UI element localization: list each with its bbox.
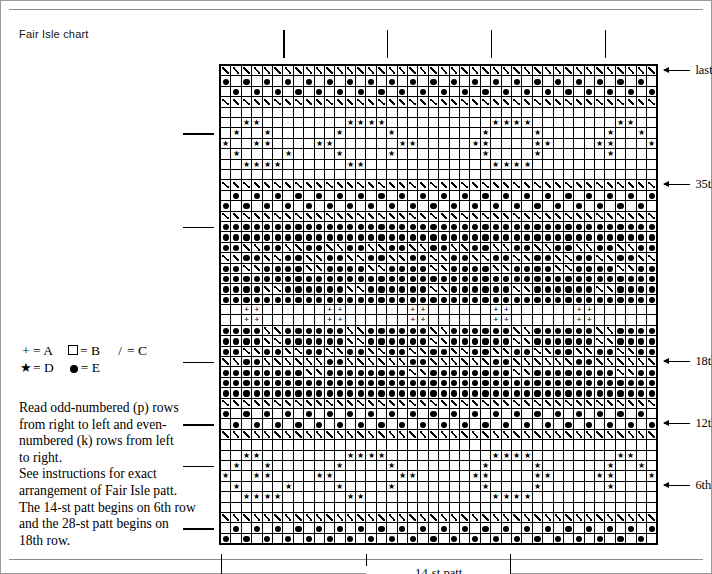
chart-cell[interactable]: [314, 429, 324, 439]
chart-cell[interactable]: [636, 523, 646, 533]
chart-cell[interactable]: [231, 232, 241, 242]
chart-cell[interactable]: [304, 149, 314, 159]
chart-cell[interactable]: [470, 211, 480, 221]
chart-cell[interactable]: [459, 211, 469, 221]
chart-cell[interactable]: [522, 97, 532, 107]
chart-cell[interactable]: [491, 86, 501, 96]
chart-cell[interactable]: [470, 523, 480, 533]
chart-cell[interactable]: [626, 190, 636, 200]
chart-cell[interactable]: [532, 305, 542, 315]
chart-cell[interactable]: [511, 325, 521, 335]
chart-cell[interactable]: [272, 367, 282, 377]
chart-cell[interactable]: [335, 211, 345, 221]
chart-cell[interactable]: ★: [480, 128, 490, 138]
chart-cell[interactable]: [522, 336, 532, 346]
chart-cell[interactable]: [366, 367, 376, 377]
chart-cell[interactable]: [647, 211, 657, 221]
chart-cell[interactable]: [511, 388, 521, 398]
chart-cell[interactable]: [522, 523, 532, 533]
chart-cell[interactable]: [366, 284, 376, 294]
chart-cell[interactable]: [376, 523, 386, 533]
chart-cell[interactable]: [626, 471, 636, 481]
chart-cell[interactable]: [636, 419, 646, 429]
chart-cell[interactable]: [314, 232, 324, 242]
chart-cell[interactable]: [522, 346, 532, 356]
chart-cell[interactable]: [428, 169, 438, 179]
chart-cell[interactable]: [615, 336, 625, 346]
chart-cell[interactable]: [387, 325, 397, 335]
chart-cell[interactable]: [335, 221, 345, 231]
chart-cell[interactable]: [491, 76, 501, 86]
chart-cell[interactable]: [449, 305, 459, 315]
chart-cell[interactable]: [231, 533, 241, 543]
chart-cell[interactable]: [324, 357, 334, 367]
chart-cell[interactable]: [543, 336, 553, 346]
chart-cell[interactable]: [335, 169, 345, 179]
chart-cell[interactable]: [532, 263, 542, 273]
chart-cell[interactable]: [595, 398, 605, 408]
chart-cell[interactable]: ★: [605, 460, 615, 470]
chart-cell[interactable]: [553, 253, 563, 263]
chart-cell[interactable]: [221, 263, 231, 273]
chart-cell[interactable]: [584, 533, 594, 543]
chart-cell[interactable]: [345, 336, 355, 346]
chart-cell[interactable]: [532, 97, 542, 107]
chart-cell[interactable]: [470, 232, 480, 242]
chart-cell[interactable]: [584, 460, 594, 470]
chart-cell[interactable]: [553, 367, 563, 377]
chart-cell[interactable]: [636, 367, 646, 377]
chart-cell[interactable]: [293, 481, 303, 491]
chart-cell[interactable]: [345, 97, 355, 107]
chart-cell[interactable]: [231, 159, 241, 169]
chart-cell[interactable]: [491, 377, 501, 387]
chart-cell[interactable]: [252, 419, 262, 429]
chart-cell[interactable]: [272, 533, 282, 543]
chart-cell[interactable]: [356, 76, 366, 86]
chart-cell[interactable]: [543, 450, 553, 460]
chart-cell[interactable]: [231, 86, 241, 96]
chart-cell[interactable]: [439, 107, 449, 117]
chart-cell[interactable]: [428, 492, 438, 502]
chart-cell[interactable]: [314, 117, 324, 127]
chart-cell[interactable]: [304, 180, 314, 190]
chart-cell[interactable]: [615, 76, 625, 86]
chart-cell[interactable]: [501, 325, 511, 335]
chart-cell[interactable]: [304, 284, 314, 294]
chart-cell[interactable]: [647, 242, 657, 252]
chart-cell[interactable]: [418, 502, 428, 512]
chart-cell[interactable]: [501, 409, 511, 419]
chart-cell[interactable]: [252, 190, 262, 200]
chart-cell[interactable]: [522, 471, 532, 481]
chart-cell[interactable]: [480, 169, 490, 179]
chart-cell[interactable]: [584, 357, 594, 367]
chart-cell[interactable]: ★: [543, 138, 553, 148]
chart-cell[interactable]: [480, 357, 490, 367]
chart-cell[interactable]: [272, 169, 282, 179]
chart-cell[interactable]: [584, 180, 594, 190]
chart-cell[interactable]: [283, 471, 293, 481]
chart-cell[interactable]: [387, 138, 397, 148]
chart-cell[interactable]: [459, 66, 469, 76]
chart-cell[interactable]: ★: [262, 128, 272, 138]
chart-cell[interactable]: [376, 481, 386, 491]
chart-cell[interactable]: [595, 533, 605, 543]
chart-cell[interactable]: [304, 253, 314, 263]
chart-cell[interactable]: [221, 242, 231, 252]
chart-cell[interactable]: [314, 107, 324, 117]
chart-cell[interactable]: [459, 460, 469, 470]
chart-cell[interactable]: [376, 253, 386, 263]
chart-cell[interactable]: [511, 253, 521, 263]
chart-cell[interactable]: [543, 76, 553, 86]
chart-cell[interactable]: [293, 315, 303, 325]
chart-cell[interactable]: [231, 169, 241, 179]
chart-cell[interactable]: [418, 232, 428, 242]
chart-cell[interactable]: [387, 86, 397, 96]
chart-cell[interactable]: [584, 190, 594, 200]
chart-cell[interactable]: [480, 440, 490, 450]
chart-cell[interactable]: [501, 523, 511, 533]
chart-cell[interactable]: [563, 221, 573, 231]
chart-cell[interactable]: [532, 273, 542, 283]
chart-cell[interactable]: [428, 211, 438, 221]
chart-cell[interactable]: [387, 523, 397, 533]
chart-cell[interactable]: [241, 502, 251, 512]
